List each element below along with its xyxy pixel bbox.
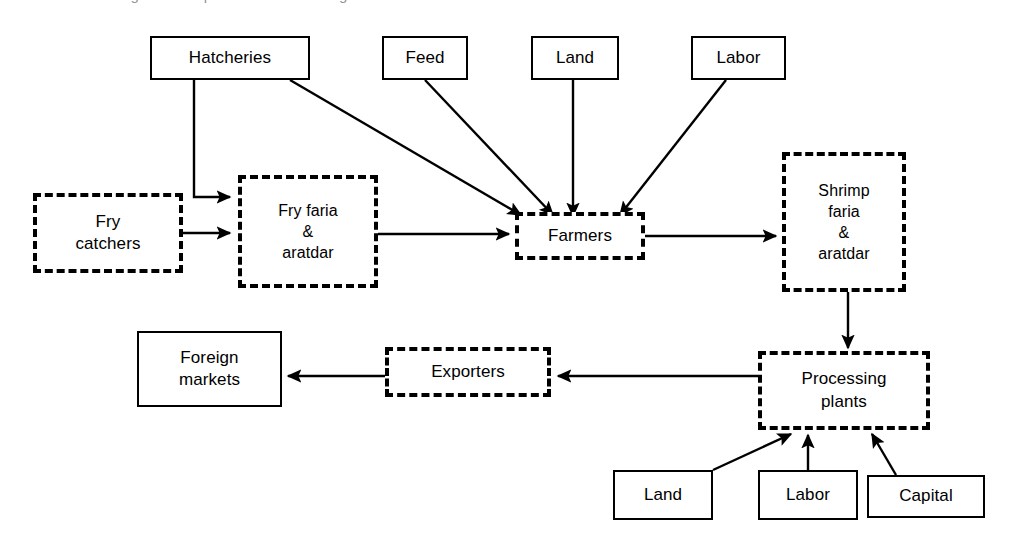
node-labor-bottom[interactable]: Labor	[758, 470, 858, 520]
value-chain-diagram: Figure Shrimp value chain in Bangladesh …	[0, 0, 1013, 550]
node-labor-top[interactable]: Labor	[691, 36, 786, 80]
node-farmers[interactable]: Farmers	[515, 212, 645, 260]
node-shrimp-faria[interactable]: Shrimp faria & aratdar	[782, 152, 906, 292]
node-label-capital: Capital	[896, 485, 956, 507]
node-hatcheries[interactable]: Hatcheries	[150, 36, 310, 80]
node-fry-catchers[interactable]: Fry catchers	[33, 193, 183, 273]
node-label-shrimp-faria: Shrimp faria & aratdar	[815, 180, 872, 264]
edge-labor-top-to-farmers	[620, 80, 726, 215]
edge-feed-to-farmers	[425, 80, 553, 215]
node-label-foreign-markets: Foreign markets	[176, 347, 243, 392]
node-feed[interactable]: Feed	[382, 36, 468, 80]
node-land-top[interactable]: Land	[531, 36, 619, 80]
node-label-exporters: Exporters	[428, 361, 508, 383]
node-fry-faria[interactable]: Fry faria & aratdar	[238, 175, 378, 288]
node-land-bottom[interactable]: Land	[613, 470, 713, 520]
node-label-fry-faria: Fry faria & aratdar	[275, 200, 341, 263]
node-label-labor-bottom: Labor	[783, 484, 833, 506]
cropped-title-remnant: Figure Shrimp value chain in Bangladesh	[0, 0, 1013, 8]
node-label-land-top: Land	[553, 47, 597, 69]
node-label-farmers: Farmers	[545, 225, 615, 247]
node-foreign-markets[interactable]: Foreign markets	[137, 331, 282, 407]
node-label-hatcheries: Hatcheries	[186, 47, 274, 69]
edge-land-bottom-to-processing	[713, 434, 791, 470]
node-capital[interactable]: Capital	[867, 475, 985, 518]
node-label-feed: Feed	[402, 47, 447, 69]
node-processing-plants[interactable]: Processing plants	[758, 351, 930, 430]
node-exporters[interactable]: Exporters	[385, 347, 551, 397]
node-label-land-bottom: Land	[641, 484, 685, 506]
node-label-fry-catchers: Fry catchers	[72, 211, 143, 256]
edge-hatcheries-to-fry-faria	[194, 80, 230, 197]
edge-capital-to-processing	[872, 434, 896, 475]
node-label-labor-top: Labor	[714, 47, 764, 69]
cropped-title-text: Figure Shrimp value chain in Bangladesh	[0, 0, 392, 3]
node-label-processing-plants: Processing plants	[798, 368, 889, 413]
